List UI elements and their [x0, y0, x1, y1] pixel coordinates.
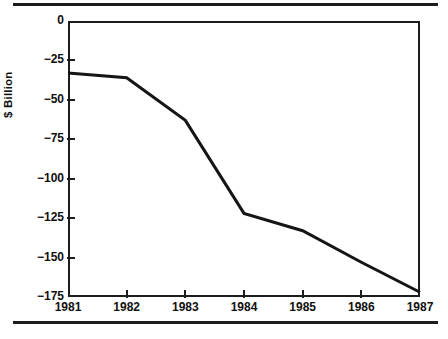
y-axis-tick-mark [67, 257, 75, 259]
y-axis-tick-label: −125 [37, 210, 64, 224]
data-line-series [68, 21, 420, 297]
y-axis-tick-mark [67, 178, 75, 180]
y-axis-tick-label: −150 [37, 250, 64, 264]
top-divider-rule [13, 3, 438, 6]
y-axis-tick-mark [67, 99, 75, 101]
y-axis-tick-label: −50 [44, 92, 64, 106]
y-axis-tick-label: −75 [44, 131, 64, 145]
y-axis-tick-mark [67, 138, 75, 140]
y-axis-tick-label: 0 [57, 13, 64, 27]
x-axis-tick-mark [126, 290, 128, 298]
x-axis-tick-label: 1984 [231, 300, 258, 314]
x-axis-tick-labels: 1981198219831984198519861987 [68, 300, 420, 318]
y-axis-tick-label: −100 [37, 171, 64, 185]
y-axis-tick-mark [67, 217, 75, 219]
x-axis-tick-label: 1985 [289, 300, 316, 314]
y-axis-tick-labels: 0−25−50−75−100−125−150−175 [14, 21, 64, 297]
x-axis-tick-mark [243, 290, 245, 298]
y-axis-tick-label: −25 [44, 52, 64, 66]
x-axis-tick-label: 1982 [113, 300, 140, 314]
x-axis-tick-label: 1986 [348, 300, 375, 314]
x-axis-tick-mark [302, 290, 304, 298]
deficit-line-path [68, 73, 420, 292]
y-axis-tick-mark [67, 59, 75, 61]
x-axis-tick-label: 1981 [55, 300, 82, 314]
bottom-divider-rule [13, 321, 438, 324]
plot-area [68, 21, 420, 297]
x-axis-tick-label: 1983 [172, 300, 199, 314]
y-axis-title: $ Billion [2, 71, 14, 118]
chart-figure: $ Billion 0−25−50−75−100−125−150−175 198… [0, 0, 448, 339]
x-axis-tick-mark [360, 290, 362, 298]
x-axis-tick-label: 1987 [407, 300, 434, 314]
x-axis-tick-mark [184, 290, 186, 298]
